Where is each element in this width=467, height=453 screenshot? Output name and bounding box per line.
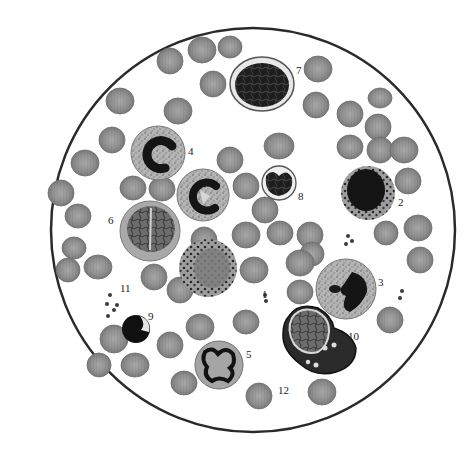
red-blood-cell — [56, 258, 80, 282]
blood-smear-svg: 1 2 3 4 5 6 7 8 9 10 11 12 — [0, 0, 467, 453]
red-blood-cell — [304, 56, 332, 82]
red-blood-cell — [390, 137, 418, 163]
cell-2-granular-cell — [341, 166, 395, 220]
red-blood-cell — [171, 370, 197, 396]
red-blood-cell — [395, 168, 421, 194]
label-5: 5 — [246, 348, 252, 360]
red-blood-cell — [157, 48, 183, 74]
platelet — [346, 234, 350, 238]
red-blood-cell — [106, 88, 134, 114]
label-7: 7 — [296, 64, 302, 76]
platelet — [344, 242, 348, 246]
red-blood-cell — [157, 332, 183, 358]
label-4: 4 — [188, 145, 194, 157]
platelet — [112, 308, 116, 312]
red-blood-cell — [65, 204, 91, 228]
red-blood-cell — [246, 383, 272, 409]
red-blood-cell — [365, 114, 391, 140]
red-blood-cell — [337, 134, 363, 160]
red-blood-cell — [404, 215, 432, 241]
cell-1-eosinophil — [179, 239, 237, 297]
cell-8-small-lymphocyte — [262, 166, 296, 200]
red-blood-cell — [186, 314, 214, 340]
red-blood-cell — [287, 279, 313, 305]
red-blood-cell — [286, 250, 314, 276]
label-1: 1 — [262, 288, 268, 300]
cell-band-neutrophil-center — [177, 169, 229, 221]
red-blood-cell — [407, 247, 433, 273]
cell-5-segmented-neutrophil — [195, 341, 243, 389]
label-12: 12 — [278, 384, 289, 396]
cell-3-segmented-neutrophil — [316, 259, 376, 319]
red-blood-cell — [149, 177, 175, 201]
red-blood-cell — [200, 71, 226, 97]
red-blood-cell — [303, 92, 329, 118]
red-blood-cell — [141, 264, 167, 290]
platelet — [350, 239, 354, 243]
platelet — [105, 302, 109, 306]
red-blood-cell — [218, 35, 242, 59]
red-blood-cell — [264, 132, 294, 160]
red-blood-cell — [233, 309, 259, 335]
red-blood-cell — [233, 173, 259, 199]
label-9: 9 — [148, 310, 154, 322]
cell-6-monocyte — [120, 201, 180, 261]
platelet — [115, 303, 119, 307]
red-blood-cell — [62, 236, 86, 260]
red-blood-cell — [267, 220, 293, 246]
cell-7-large-lymphocyte — [230, 57, 294, 111]
label-3: 3 — [378, 276, 384, 288]
platelet — [400, 289, 404, 293]
red-blood-cell — [337, 101, 363, 127]
label-2: 2 — [398, 196, 404, 208]
label-11: 11 — [120, 282, 131, 294]
cell-9-nucleated-cell — [122, 315, 150, 343]
platelet — [398, 296, 402, 300]
cell-4-band-neutrophil — [131, 126, 185, 180]
red-blood-cell — [377, 307, 403, 333]
red-blood-cell — [240, 257, 268, 283]
red-blood-cell — [374, 221, 398, 245]
red-blood-cell — [188, 37, 216, 63]
blood-smear-figure: 1 2 3 4 5 6 7 8 9 10 11 12 — [0, 0, 467, 453]
red-blood-cell — [99, 127, 125, 153]
red-blood-cell — [217, 147, 243, 173]
red-blood-cell — [71, 150, 99, 176]
red-blood-cell — [87, 353, 111, 377]
red-blood-cell — [308, 379, 336, 405]
red-blood-cell — [232, 222, 260, 248]
red-blood-cell — [164, 97, 192, 125]
label-8: 8 — [298, 190, 304, 202]
label-6: 6 — [108, 214, 114, 226]
label-10: 10 — [348, 330, 360, 342]
red-blood-cell — [367, 137, 393, 163]
red-blood-cell — [120, 175, 146, 201]
platelet — [106, 314, 110, 318]
red-blood-cell — [252, 197, 278, 223]
platelet — [108, 293, 112, 297]
red-blood-cell — [48, 180, 74, 206]
